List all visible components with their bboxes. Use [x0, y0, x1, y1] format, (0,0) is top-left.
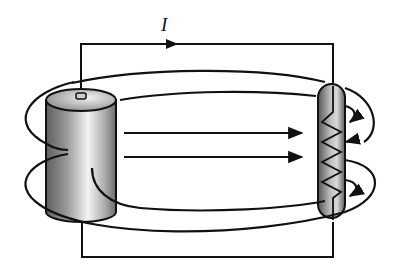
- diagram-canvas: I: [0, 0, 410, 278]
- current-label: I: [161, 14, 167, 36]
- battery-terminal-icon: [76, 93, 86, 99]
- resistor-icon: [318, 84, 345, 220]
- circuit-diagram: [0, 0, 410, 278]
- field-arrows: [124, 133, 302, 157]
- current-arrow-icon: [166, 39, 178, 49]
